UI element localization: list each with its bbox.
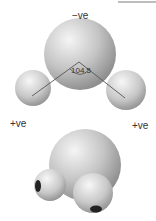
oxygen-charge-label: −ve — [72, 10, 88, 21]
hydrogen-right-charge-label: +ve — [132, 120, 148, 131]
hydrogen-atom-left — [15, 70, 51, 106]
hole-right — [90, 206, 102, 213]
hydrogen-atom-right — [106, 70, 146, 110]
molecule-diagram — [0, 0, 156, 221]
hole-left — [35, 180, 41, 192]
bond-angle-label: 104.5 — [71, 66, 91, 75]
hydrogen-left-charge-label: +ve — [10, 118, 26, 129]
